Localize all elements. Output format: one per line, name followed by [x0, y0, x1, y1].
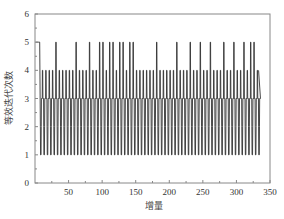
series-line [36, 42, 261, 155]
x-tick-label: 100 [95, 187, 109, 197]
y-axis-label: 等效迭代次数 [3, 71, 14, 125]
data-series [36, 42, 261, 155]
y-tick-label: 4 [25, 65, 30, 75]
y-axis: 0123456 [25, 9, 39, 188]
y-tick-label: 2 [25, 122, 30, 132]
y-tick-label: 5 [25, 37, 30, 47]
y-tick-label: 3 [25, 94, 30, 104]
y-tick-label: 0 [25, 178, 30, 188]
x-tick-label: 300 [230, 187, 244, 197]
x-tick-label: 50 [64, 187, 74, 197]
x-tick-label: 200 [163, 187, 177, 197]
x-tick-label: 150 [129, 187, 143, 197]
x-tick-label: 350 [263, 187, 277, 197]
x-axis-label: 增量 [145, 200, 163, 211]
x-tick-label: 250 [196, 187, 210, 197]
line-chart: 50100150200250300350 0123456 增量 等效迭代次数 [0, 0, 284, 219]
y-tick-label: 1 [25, 150, 30, 160]
y-tick-label: 6 [25, 9, 30, 19]
